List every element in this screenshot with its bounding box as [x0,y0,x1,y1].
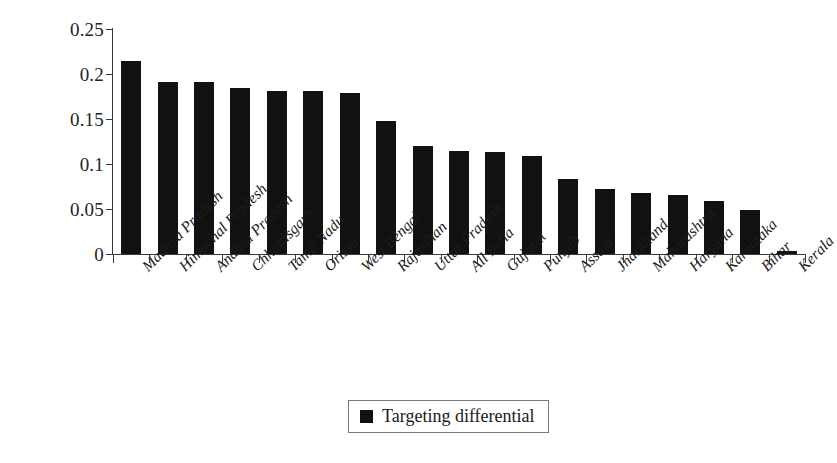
x-axis-category-label: Uttar Pradesh [431,263,442,274]
x-axis-category-label: Karnataka [722,263,733,274]
legend-swatch-targeting-differential [360,410,373,423]
x-axis-tick-mark [550,255,551,263]
chart-figure: 00.050.10.150.20.25 Madhya PradeshHimach… [0,0,837,463]
x-axis-category-label: Assam [576,263,587,274]
x-axis-tick-mark [259,255,260,263]
bar [121,61,141,255]
x-axis-tick-mark [404,255,405,263]
bar [340,93,360,254]
x-axis-category-label: West Bengal [358,263,369,274]
x-axis-category-label: Punjab [540,263,551,274]
y-axis-tick-label: 0.15 [70,110,104,129]
x-axis-tick-mark [732,255,733,263]
x-axis-tick-mark [805,255,806,263]
x-axis-tick-mark [186,255,187,263]
y-axis-tick-label: 0.1 [80,155,104,174]
y-axis-tick-mark [106,119,113,120]
x-axis-category-labels: Madhya PradeshHimachal PradeshAndhra Pra… [113,263,805,393]
x-axis-tick-mark [696,255,697,263]
y-axis-tick-labels: 00.050.10.150.20.25 [0,29,104,254]
x-axis-tick-mark [368,255,369,263]
x-axis-tick-mark [477,255,478,263]
x-axis-tick-mark [295,255,296,263]
x-axis-category-label: Rajasthan [394,263,405,274]
legend-label-targeting-differential: Targeting differential [382,407,535,425]
x-axis-tick-mark [659,255,660,263]
x-axis-category-label: Chhattisgarh [248,263,259,274]
x-axis-tick-mark [222,255,223,263]
x-axis-tick-mark [113,255,114,263]
x-axis-tick-mark [149,255,150,263]
x-axis-category-label: Jharkhand [613,263,624,274]
x-axis-category-label: Bihar [758,263,769,274]
x-axis-category-label: Maharashtra [649,263,660,274]
x-axis-category-label: All India [467,263,478,274]
chart-legend: Targeting differential [348,400,549,433]
y-axis-tick-mark [106,74,113,75]
x-axis-category-label: Gujarat [503,263,514,274]
y-axis-tick-label: 0.05 [70,200,104,219]
x-axis-category-label: Andhra Pradesh [212,263,223,274]
x-axis-tick-mark [514,255,515,263]
x-axis-tick-mark [441,255,442,263]
x-axis-tick-mark [586,255,587,263]
y-axis-tick-label: 0 [94,245,104,264]
y-axis-tick-mark [106,209,113,210]
y-axis-tick-mark [106,164,113,165]
x-axis-category-label: Madhya Pradesh [139,263,150,274]
y-axis-tick-label: 0.2 [80,65,104,84]
x-axis-category-label: Kerala [795,263,806,274]
y-axis-tick-label: 0.25 [70,20,104,39]
y-axis-tick-mark [106,29,113,30]
x-axis-category-label: Himachal Pradesh [176,263,187,274]
x-axis-category-label: Tamil Nadu [285,263,296,274]
x-axis-tick-mark [769,255,770,263]
x-axis-category-label: Haryana [686,263,697,274]
x-axis-tick-mark [623,255,624,263]
x-axis-tick-mark [332,255,333,263]
y-axis-tick-mark [106,254,113,255]
x-axis-category-label: Orissa [321,263,332,274]
